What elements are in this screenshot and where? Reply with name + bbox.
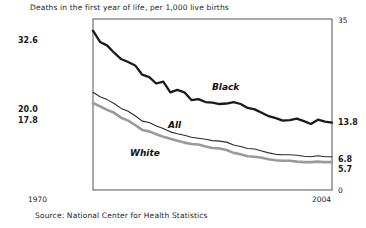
label-all-end: 6.8	[338, 155, 352, 164]
series-line-black	[93, 31, 332, 124]
series-label-all: All	[168, 120, 181, 130]
label-all-start: 20.0	[18, 105, 38, 114]
infant-mortality-chart: Deaths in the first year of life, per 1,…	[0, 0, 366, 228]
label-axis-top: 35	[338, 16, 348, 25]
label-x-start: 1970	[28, 195, 47, 204]
label-white-end: 5.7	[338, 165, 352, 174]
series-label-black: Black	[212, 82, 239, 92]
label-black-start: 32.6	[18, 36, 38, 45]
chart-plot-area	[0, 0, 366, 228]
series-label-white: White	[130, 148, 160, 158]
label-x-end: 2004	[312, 195, 331, 204]
label-white-start: 17.8	[18, 116, 38, 125]
chart-source: Source: National Center for Health Stati…	[35, 211, 208, 220]
label-axis-bottom: 0	[338, 186, 343, 195]
plot-frame	[93, 19, 332, 190]
label-black-end: 13.8	[338, 118, 358, 127]
